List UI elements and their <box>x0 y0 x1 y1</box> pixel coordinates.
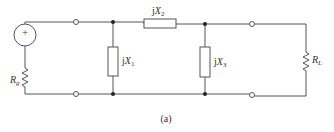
x2-label: jX2 <box>151 5 165 18</box>
input-terminal-top <box>74 20 79 25</box>
output-terminal-bottom <box>250 93 255 98</box>
bottom-rail <box>25 94 306 96</box>
rl-label: RL <box>311 54 322 67</box>
voltage-source: + <box>14 22 36 68</box>
shunt-reactance-x3: jX3 <box>200 22 227 96</box>
x1-label: jX1 <box>121 55 135 68</box>
junction-dot <box>111 20 115 24</box>
x3-label: jX3 <box>213 56 227 69</box>
junction-dot <box>111 92 115 96</box>
source-resistor: Rg <box>9 68 28 94</box>
plus-sign: + <box>22 27 28 38</box>
figure-caption: (a) <box>160 113 171 125</box>
load-resistor: RL <box>303 24 322 96</box>
shunt-reactance-x1: jX1 <box>108 20 135 96</box>
rg-label: Rg <box>9 74 20 87</box>
output-terminal-top <box>250 22 255 27</box>
input-terminal-bottom <box>74 92 79 97</box>
junction-dot <box>203 92 207 96</box>
junction-dot <box>203 22 207 26</box>
circuit-diagram: + Rg jX1 jX2 jX3 RL <box>0 0 334 132</box>
series-reactance-x2: jX2 <box>144 5 176 28</box>
